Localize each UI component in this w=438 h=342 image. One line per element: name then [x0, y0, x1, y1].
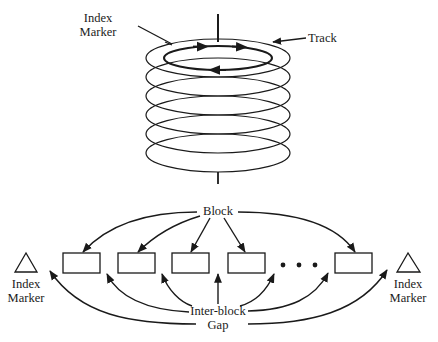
data-block-3 [172, 253, 209, 273]
block-arrows [83, 212, 355, 252]
ellipsis-dot-1 [281, 263, 286, 268]
block-arrow-last [238, 212, 355, 252]
block-arrow-2 [138, 216, 200, 252]
gap-arrow-1-2 [107, 274, 189, 312]
platters [146, 39, 290, 172]
gap-arrow-4-dots [240, 274, 274, 306]
block-label: Block [203, 204, 234, 218]
track-label: Track [308, 31, 337, 45]
index-marker-left-label-line2: Marker [8, 291, 46, 305]
index-marker-label-top-line1: Index [84, 11, 113, 25]
data-block-2 [118, 253, 155, 273]
gap-arrow-before-index-right [248, 270, 387, 324]
disk-stack: Index Marker Track [80, 11, 338, 184]
index-marker-left-icon [15, 253, 37, 272]
track-leader-arrow [273, 38, 306, 42]
gap-arrow-after-index-left [50, 271, 196, 324]
disk-track-diagram: Index Marker Track Index Marker Index Ma… [0, 0, 438, 342]
data-block-4 [228, 253, 265, 273]
index-marker-label-top-line2: Marker [80, 25, 118, 39]
ellipsis [281, 263, 318, 268]
index-marker-left-label-line1: Index [12, 277, 41, 291]
ellipsis-dot-3 [313, 263, 318, 268]
gap-label-line2: Gap [208, 318, 229, 332]
index-marker-right-label-line1: Index [394, 277, 423, 291]
gap-arrow-dots-last [248, 273, 328, 311]
block-arrow-4 [224, 218, 245, 252]
gap-arrow-2-3 [162, 274, 192, 306]
data-block-1 [63, 253, 100, 273]
index-marker-right-icon [397, 253, 420, 272]
gap-label-line1: Inter-block [190, 304, 246, 318]
index-marker-leader [138, 26, 172, 44]
block-arrow-3 [191, 218, 210, 252]
track-layout: Index Marker Index Marker Block Inter-bl… [8, 204, 428, 332]
index-marker-right-label-line2: Marker [390, 291, 428, 305]
block-arrow-1 [83, 212, 197, 252]
data-block-last [335, 253, 372, 273]
ellipsis-dot-2 [297, 263, 302, 268]
